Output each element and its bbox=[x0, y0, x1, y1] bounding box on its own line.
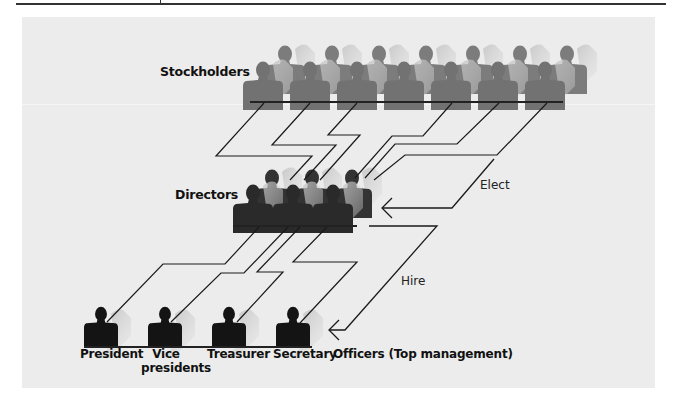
stockholders-baseline bbox=[250, 101, 563, 103]
directors-label: Directors bbox=[175, 187, 238, 202]
stockholder-connectors bbox=[216, 103, 547, 180]
president-label: President bbox=[80, 347, 143, 361]
secretary-label: Secretary bbox=[273, 347, 337, 361]
directors-baseline bbox=[233, 225, 357, 227]
treasurer-label: Treasurer bbox=[207, 347, 270, 361]
stockholders-label: Stockholders bbox=[160, 64, 250, 79]
officers-label: Officers (Top management) bbox=[333, 347, 513, 361]
vice-presidents-label: Vice presidents bbox=[141, 347, 191, 375]
vice-presidents-line1: Vice bbox=[141, 347, 191, 361]
org-diagram bbox=[0, 0, 676, 403]
stockholders-group bbox=[243, 45, 597, 111]
elect-arrow bbox=[382, 159, 494, 218]
elect-label: Elect bbox=[480, 178, 510, 192]
hire-label: Hire bbox=[401, 274, 425, 288]
directors-group bbox=[233, 168, 382, 234]
vice-presidents-line2: presidents bbox=[141, 361, 191, 375]
